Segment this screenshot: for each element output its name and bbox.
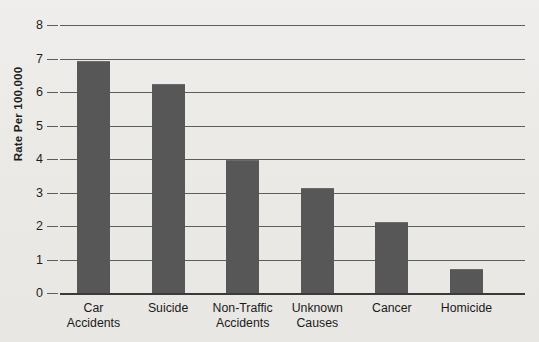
y-axis-tick [47,92,58,93]
x-axis-label-line: Accidents [46,316,142,331]
y-axis-tick-label: 8 [23,19,43,32]
x-axis-label-line: Causes [269,316,365,331]
bar [152,84,185,293]
gridline [60,92,525,93]
bar [450,269,483,293]
y-axis-tick-label: 6 [23,86,43,99]
y-axis-tick [47,193,58,194]
y-axis-tick-label: 4 [23,153,43,166]
gridline [60,126,525,127]
bar [77,61,110,293]
gridline [60,25,525,26]
bar [375,222,408,293]
y-axis-tick-label: 5 [23,119,43,132]
y-axis-tick-label: 1 [23,253,43,266]
gridline [60,260,525,261]
x-axis-label-line: Homicide [419,301,515,316]
bar-chart: Rate Per 100,000 876543210 CarAccidentsS… [0,0,539,342]
gridline [60,59,525,60]
axis-baseline [60,293,525,295]
bar [301,188,334,293]
y-axis-tick-label: 7 [23,52,43,65]
y-axis-tick [47,260,58,261]
y-axis-tick [47,59,58,60]
y-axis-tick [47,293,58,294]
gridline [60,159,525,160]
plot-area: 876543210 CarAccidentsSuicideNon-Traffic… [60,25,525,293]
y-axis-tick [47,226,58,227]
y-axis-tick-label: 2 [23,220,43,233]
y-axis-tick [47,159,58,160]
bar [226,160,259,293]
gridline [60,193,525,194]
y-axis-tick [47,126,58,127]
y-axis-tick-label: 3 [23,186,43,199]
gridline [60,226,525,227]
x-axis-label: Homicide [419,301,515,316]
y-axis-tick-label: 0 [23,287,43,300]
y-axis-tick [47,25,58,26]
